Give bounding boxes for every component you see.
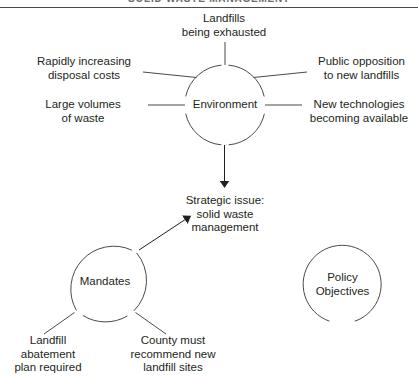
label-line-2: being exhausted bbox=[149, 26, 299, 40]
node-label-text: Mandates bbox=[64, 275, 146, 289]
label-line-2: disposal costs bbox=[18, 69, 150, 83]
node-label-policy-objectives: Policy Objectives bbox=[303, 271, 382, 298]
node-label-environment: Environment bbox=[185, 98, 265, 112]
label-new-technologies: New technologies becoming available bbox=[300, 98, 418, 125]
label-line-2: to new landfills bbox=[305, 69, 418, 83]
label-large-volumes-of-waste: Large volumes of waste bbox=[20, 98, 146, 125]
label-line-3: plan required bbox=[0, 361, 96, 375]
label-county-recommend-sites: County must recommend new landfill sites bbox=[104, 334, 242, 375]
label-line-2: solid waste bbox=[160, 208, 290, 222]
label-line-1: Rapidly increasing bbox=[18, 55, 150, 69]
connector-landfill-abatement bbox=[44, 313, 75, 335]
connector-public-opposition bbox=[254, 72, 308, 78]
diagram-page: SOLID WASTE MANAGEMENT bbox=[0, 0, 418, 377]
label-line-1: New technologies bbox=[300, 98, 418, 112]
node-label-line-1: Policy bbox=[303, 271, 382, 285]
label-line-2: recommend new bbox=[104, 348, 242, 362]
node-label-text: Environment bbox=[185, 98, 265, 112]
label-landfill-abatement-plan: Landfill abatement plan required bbox=[0, 334, 96, 375]
label-line-1: County must bbox=[104, 334, 242, 348]
label-line-3: management bbox=[160, 221, 290, 235]
node-label-mandates: Mandates bbox=[64, 275, 146, 289]
label-line-1: Strategic issue: bbox=[160, 194, 290, 208]
label-line-3: landfill sites bbox=[104, 361, 242, 375]
node-label-line-2: Objectives bbox=[303, 285, 382, 299]
label-line-2: abatement bbox=[0, 348, 96, 362]
label-line-2: becoming available bbox=[300, 112, 418, 126]
label-rapidly-increasing-disposal-costs: Rapidly increasing disposal costs bbox=[18, 55, 150, 82]
connector-county-recommend bbox=[136, 313, 167, 335]
label-strategic-issue: Strategic issue: solid waste management bbox=[160, 194, 290, 235]
label-landfills-exhausted: Landfills being exhausted bbox=[149, 12, 299, 39]
label-line-1: Large volumes bbox=[20, 98, 146, 112]
label-line-1: Public opposition bbox=[305, 55, 418, 69]
label-line-2: of waste bbox=[20, 112, 146, 126]
label-line-1: Landfills bbox=[149, 12, 299, 26]
label-public-opposition: Public opposition to new landfills bbox=[305, 55, 418, 82]
label-line-1: Landfill bbox=[0, 334, 96, 348]
connector-rapid-costs bbox=[143, 72, 197, 78]
